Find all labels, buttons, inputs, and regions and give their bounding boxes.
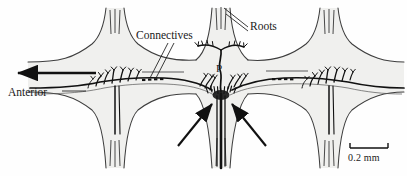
roots-label: Roots <box>250 20 277 32</box>
scale-bar-label: 0.2 mm <box>348 152 380 163</box>
diagram-canvas <box>0 0 407 176</box>
scale-bar <box>350 143 388 148</box>
synapse-site <box>213 90 230 100</box>
p-neuron-label: P <box>216 62 222 74</box>
connectives-label: Connectives <box>136 29 193 41</box>
anterior-label: Anterior <box>8 86 47 98</box>
nerve-cord-diagram: Connectives Roots Anterior P 0.2 mm <box>0 0 407 176</box>
